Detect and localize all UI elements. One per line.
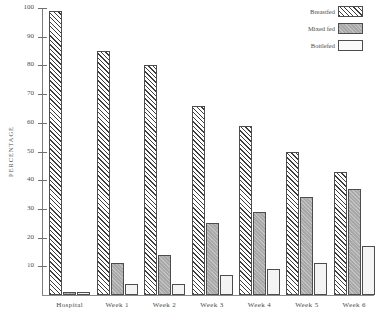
bar-group bbox=[49, 8, 90, 295]
legend-label-breastfed: Breastfed bbox=[310, 8, 335, 15]
bar-bottlefed bbox=[172, 284, 185, 295]
y-tick-label-30: 30 bbox=[27, 204, 34, 212]
bar-breastfed bbox=[334, 172, 347, 295]
y-tick-label-80: 80 bbox=[27, 60, 34, 68]
y-tick-label-50: 50 bbox=[27, 147, 34, 155]
bar-group bbox=[97, 8, 138, 295]
legend-item-bottlefed: Bottlefed bbox=[268, 40, 363, 57]
bar-bottlefed bbox=[314, 263, 327, 295]
bar-breastfed bbox=[286, 152, 299, 296]
bar-mixed bbox=[206, 223, 219, 295]
y-tick-90: 90 bbox=[38, 37, 47, 38]
bar-bottlefed bbox=[125, 284, 138, 295]
legend-swatch-mixed-fed bbox=[338, 23, 363, 34]
bar-mixed bbox=[300, 197, 313, 295]
bar-breastfed bbox=[144, 65, 157, 295]
y-tick-label-20: 20 bbox=[27, 233, 34, 241]
bar-group bbox=[144, 8, 185, 295]
y-tick-10: 10 bbox=[38, 266, 47, 267]
chart-legend: Breastfed Mixed fed Bottlefed bbox=[268, 6, 363, 57]
y-tick-label-60: 60 bbox=[27, 118, 34, 126]
bar-mixed bbox=[253, 212, 266, 295]
bar-mixed bbox=[158, 255, 171, 295]
y-tick-40: 40 bbox=[38, 180, 47, 181]
y-tick-50: 50 bbox=[38, 152, 47, 153]
bar-bottlefed bbox=[220, 275, 233, 295]
bar-breastfed bbox=[97, 51, 110, 295]
bar-mixed bbox=[63, 292, 76, 295]
bar-chart: PERCENTAGE 102030405060708090100 Hospita… bbox=[0, 0, 380, 323]
y-tick-60: 60 bbox=[38, 123, 47, 124]
legend-item-breastfed: Breastfed bbox=[268, 6, 363, 23]
x-axis-label: Week 6 bbox=[314, 301, 380, 309]
bar-mixed bbox=[111, 263, 124, 295]
legend-item-mixed-fed: Mixed fed bbox=[268, 23, 363, 40]
y-tick-label-90: 90 bbox=[27, 32, 34, 40]
x-axis-line bbox=[42, 295, 374, 296]
y-tick-70: 70 bbox=[38, 94, 47, 95]
legend-swatch-bottlefed bbox=[338, 40, 363, 51]
y-tick-label-10: 10 bbox=[27, 261, 34, 269]
bar-group bbox=[192, 8, 233, 295]
y-tick-label-70: 70 bbox=[27, 89, 34, 97]
y-tick-30: 30 bbox=[38, 209, 47, 210]
legend-label-bottlefed: Bottlefed bbox=[311, 42, 335, 49]
y-tick-100: 100 bbox=[38, 8, 47, 9]
bar-bottlefed bbox=[77, 292, 90, 295]
bar-bottlefed bbox=[267, 269, 280, 295]
bar-breastfed bbox=[239, 126, 252, 295]
y-tick-20: 20 bbox=[38, 238, 47, 239]
bar-breastfed bbox=[192, 106, 205, 295]
bar-bottlefed bbox=[362, 246, 375, 295]
legend-label-mixed-fed: Mixed fed bbox=[308, 25, 335, 32]
y-tick-80: 80 bbox=[38, 65, 47, 66]
y-axis-title: PERCENTAGE bbox=[7, 107, 14, 197]
legend-swatch-breastfed bbox=[338, 6, 363, 17]
y-tick-label-40: 40 bbox=[27, 175, 34, 183]
y-tick-label-100: 100 bbox=[24, 3, 35, 11]
bar-mixed bbox=[348, 189, 361, 295]
bar-breastfed bbox=[49, 11, 62, 295]
